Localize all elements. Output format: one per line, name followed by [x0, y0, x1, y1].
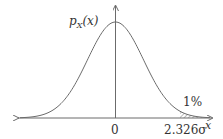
y-axis-label: pX(x)	[69, 15, 99, 30]
threshold-label: 2.326σ	[164, 124, 207, 136]
origin-label: 0	[111, 124, 119, 136]
gaussian-diagram	[0, 0, 223, 139]
x-axis-label: x	[205, 120, 211, 131]
tail-percent-label: 1%	[183, 96, 202, 108]
